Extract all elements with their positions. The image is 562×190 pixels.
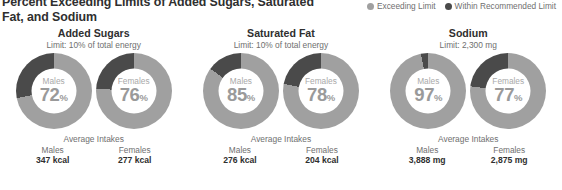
percent-symbol: % [514,91,522,102]
legend-label-exceeding: Exceeding Limit [377,1,436,11]
donut-value: 85% [227,84,255,106]
donut-value-number: 76 [120,83,140,104]
percent-symbol: % [327,91,335,102]
donut-center: Females 78% [298,69,343,114]
nutrient-groups: Added Sugars Limit: 10% of total energy … [0,27,562,166]
averages-row: Males 276 kcal Females 204 kcal [199,145,363,166]
percent-symbol: % [60,91,68,102]
donut-row: Males 85% Females 78% [203,53,359,129]
legend-label-within: Within Recommended Limit [455,1,556,11]
donut-center: Males 85% [218,69,263,114]
group-title: Sodium [449,27,488,39]
donut-chart-females: Females 78% [283,53,359,129]
average-cell-females: Females 277 kcal [94,145,176,166]
circle-icon [445,3,452,10]
percent-symbol: % [140,91,148,102]
donut-value-number: 85 [227,83,247,104]
average-amount: 2,875 mg [468,155,550,166]
donut-row: Males 72% Females 76% [16,53,172,129]
nutrient-group-saturated-fat: Saturated Fat Limit: 10% of total energy… [187,27,374,166]
average-amount: 3,888 mg [386,155,468,166]
infographic-root: Percent Exceeding Limits of Added Sugars… [0,0,562,190]
group-limit: Limit: 2,300 mg [440,40,497,51]
average-sex-label: Females [281,145,363,155]
donut-value: 77% [494,84,522,106]
average-cell-females: Females 2,875 mg [468,145,550,166]
donut-chart-females: Females 77% [470,53,546,129]
averages-heading: Average Intakes [63,134,123,144]
donut-value: 97% [414,84,442,106]
donut-row: Males 97% Females 77% [390,53,546,129]
percent-symbol: % [434,91,442,102]
average-amount: 276 kcal [199,155,281,166]
donut-center: Females 76% [111,69,156,114]
average-cell-females: Females 204 kcal [281,145,363,166]
group-title: Saturated Fat [247,27,315,39]
donut-value-number: 72 [40,83,60,104]
averages-row: Males 347 kcal Females 277 kcal [12,145,176,166]
averages-heading: Average Intakes [438,134,498,144]
circle-icon [367,3,374,10]
average-cell-males: Males 3,888 mg [386,145,468,166]
average-sex-label: Males [199,145,281,155]
chart-legend: Exceeding Limit Within Recommended Limit [367,1,556,11]
averages-heading: Average Intakes [251,134,311,144]
average-sex-label: Females [468,145,550,155]
donut-center: Males 97% [406,69,451,114]
donut-chart-males: Males 97% [390,53,466,129]
page-title: Percent Exceeding Limits of Added Sugars… [2,0,332,25]
donut-value: 72% [40,84,68,106]
average-sex-label: Males [386,145,468,155]
donut-center: Females 77% [486,69,531,114]
legend-item-within: Within Recommended Limit [445,1,556,11]
donut-chart-females: Females 76% [96,53,172,129]
donut-chart-males: Males 72% [16,53,92,129]
group-limit: Limit: 10% of total energy [46,40,141,51]
donut-chart-males: Males 85% [203,53,279,129]
average-sex-label: Males [12,145,94,155]
legend-item-exceeding: Exceeding Limit [367,1,436,11]
average-cell-males: Males 347 kcal [12,145,94,166]
average-cell-males: Males 276 kcal [199,145,281,166]
average-sex-label: Females [94,145,176,155]
average-amount: 277 kcal [94,155,176,166]
group-title: Added Sugars [58,27,130,39]
average-amount: 347 kcal [12,155,94,166]
nutrient-group-added-sugars: Added Sugars Limit: 10% of total energy … [0,27,187,166]
donut-value: 78% [307,84,335,106]
percent-symbol: % [247,91,255,102]
nutrient-group-sodium: Sodium Limit: 2,300 mg Males 97% Females… [375,27,562,166]
donut-value-number: 77 [494,83,514,104]
averages-row: Males 3,888 mg Females 2,875 mg [386,145,550,166]
donut-value: 76% [120,84,148,106]
donut-center: Males 72% [31,69,76,114]
donut-value-number: 97 [414,83,434,104]
group-limit: Limit: 10% of total energy [234,40,329,51]
donut-value-number: 78 [307,83,327,104]
average-amount: 204 kcal [281,155,363,166]
